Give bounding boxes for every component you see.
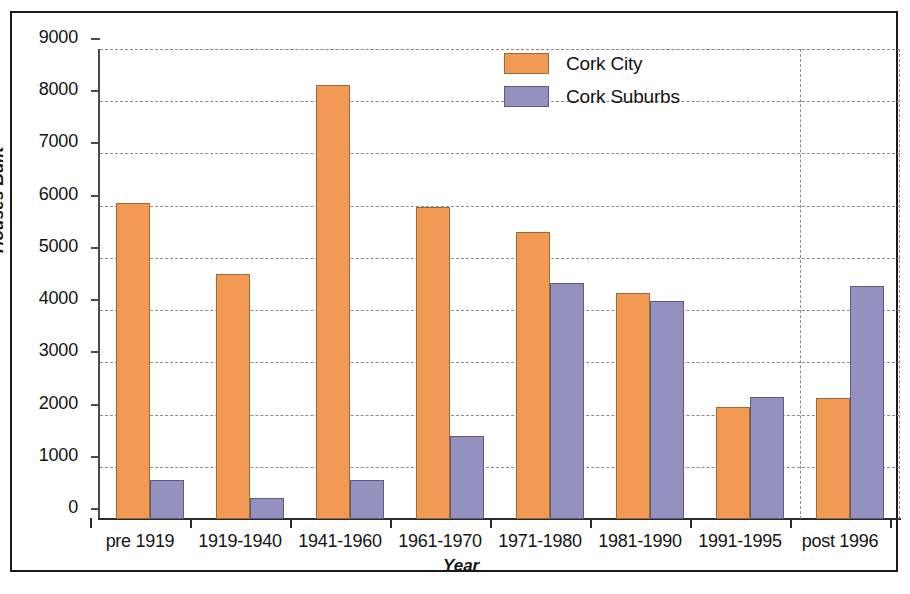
legend-label-cork-city: Cork City (566, 53, 642, 75)
gridline-horizontal (100, 49, 900, 50)
y-tick-mark (91, 38, 100, 40)
legend-item-cork-city: Cork City (504, 47, 734, 80)
plot-area (100, 49, 900, 519)
gridline-horizontal (100, 206, 900, 207)
x-tick-mark (790, 518, 792, 528)
y-tick-mark (91, 90, 100, 92)
bar-cork-suburbs (550, 283, 584, 519)
x-tick-label: 1941-1960 (290, 531, 390, 552)
x-tick-label: 1971-1980 (490, 531, 590, 552)
legend-swatch-cork-suburbs (504, 86, 549, 107)
bar-cork-suburbs (850, 286, 884, 519)
gridline-horizontal (100, 101, 900, 102)
bar-cork-city (116, 203, 150, 519)
x-tick-label: 1919-1940 (190, 531, 290, 552)
y-tick-label: 0 (12, 497, 78, 518)
bar-cork-city (316, 85, 350, 519)
bar-cork-city (616, 293, 650, 519)
chart-legend: Cork City Cork Suburbs (504, 47, 734, 113)
bar-cork-city (416, 207, 450, 519)
y-tick-label: 3000 (12, 340, 78, 361)
bar-cork-city (516, 232, 550, 519)
y-tick-mark (91, 299, 100, 301)
x-tick-label: 1981-1990 (590, 531, 690, 552)
x-tick-label: 1961-1970 (390, 531, 490, 552)
x-axis-title: Year (443, 556, 479, 576)
x-tick-mark (890, 518, 892, 528)
y-tick-label: 8000 (12, 79, 78, 100)
x-tick-mark (690, 518, 692, 528)
gridline-horizontal (100, 153, 900, 154)
bar-cork-suburbs (750, 397, 784, 519)
y-tick-label: 2000 (12, 393, 78, 414)
x-tick-label: post 1996 (790, 531, 890, 552)
x-tick-mark (390, 518, 392, 528)
y-tick-label: 5000 (12, 236, 78, 257)
x-tick-mark (90, 518, 92, 528)
chart-outer-frame: Houses Built Year 0100020003000400050006… (10, 11, 898, 572)
x-tick-label: pre 1919 (90, 531, 190, 552)
bar-cork-suburbs (650, 301, 684, 519)
y-tick-mark (91, 195, 100, 197)
y-tick-mark (91, 404, 100, 406)
gridline-vertical (800, 49, 801, 519)
plot-right-border (899, 49, 900, 519)
bar-cork-city (716, 407, 750, 519)
bar-cork-suburbs (350, 480, 384, 519)
bar-cork-city (216, 274, 250, 519)
y-tick-mark (91, 351, 100, 353)
y-tick-mark (91, 247, 100, 249)
y-tick-mark (91, 508, 100, 510)
x-tick-mark (290, 518, 292, 528)
bar-cork-suburbs (450, 436, 484, 519)
bar-chart-figure: Houses Built Year 0100020003000400050006… (0, 0, 910, 594)
bar-cork-suburbs (150, 480, 184, 519)
x-tick-mark (190, 518, 192, 528)
x-tick-mark (490, 518, 492, 528)
bar-cork-city (816, 398, 850, 519)
y-tick-label: 6000 (12, 184, 78, 205)
legend-item-cork-suburbs: Cork Suburbs (504, 80, 734, 113)
legend-label-cork-suburbs: Cork Suburbs (566, 86, 680, 108)
y-axis-title: Houses Built (0, 147, 8, 253)
bar-cork-suburbs (250, 498, 284, 519)
y-tick-label: 7000 (12, 131, 78, 152)
y-tick-label: 1000 (12, 445, 78, 466)
y-tick-label: 4000 (12, 288, 78, 309)
x-tick-label: 1991-1995 (690, 531, 790, 552)
y-tick-mark (91, 456, 100, 458)
x-tick-mark (590, 518, 592, 528)
y-tick-label: 9000 (12, 27, 78, 48)
y-tick-mark (91, 142, 100, 144)
legend-swatch-cork-city (504, 53, 549, 74)
gridline-horizontal (100, 258, 900, 259)
